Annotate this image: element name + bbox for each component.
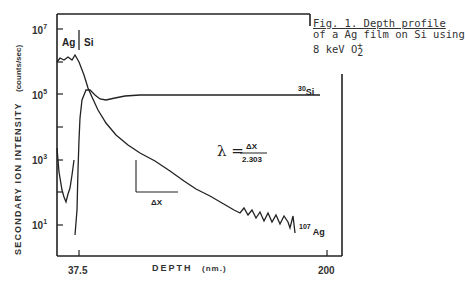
formula-numerator: ΔX (246, 142, 258, 151)
caption-superscript: + (357, 40, 362, 50)
series-107ag-line (57, 55, 295, 233)
svg-text:101: 101 (32, 218, 47, 231)
x-axis-unit: (nm.) (202, 264, 227, 273)
slope-triangle (136, 160, 178, 192)
svg-text:107: 107 (32, 23, 47, 36)
y-axis-label: SECONDARY ION INTENSITY (13, 102, 23, 255)
caption-line-3: 8 keV O (313, 43, 357, 55)
series-107ag-surface-dip (57, 148, 74, 202)
y-tick-labels: 107 105 103 101 (32, 23, 47, 231)
lambda-label: λ = (217, 142, 244, 160)
x-axis-ticks (79, 250, 327, 256)
series-30si-line (75, 90, 320, 235)
y-axis-label-group: SECONDARY ION INTENSITY (counts/sec) (13, 45, 23, 255)
figure-caption: Fig. 1. Depth profile of a Ag film on Si… (313, 18, 465, 58)
svg-text:105: 105 (32, 88, 47, 101)
formula-denominator: 2.303 (242, 155, 263, 164)
x-tick-200: 200 (318, 265, 335, 276)
caption-line-2: of a Ag film on Si using (313, 28, 465, 40)
x-tick-37-5: 37.5 (68, 265, 88, 276)
series-label-107ag: 107Ag (299, 223, 325, 237)
x-axis-label: DEPTH (152, 263, 193, 273)
plot-frame (57, 14, 342, 256)
y-axis-unit: (counts/sec) (14, 45, 23, 92)
svg-text:103: 103 (32, 153, 47, 166)
region-label-si: Si (84, 37, 94, 48)
region-label-ag: Ag (62, 37, 75, 48)
delta-x-label: ΔX (151, 198, 163, 207)
